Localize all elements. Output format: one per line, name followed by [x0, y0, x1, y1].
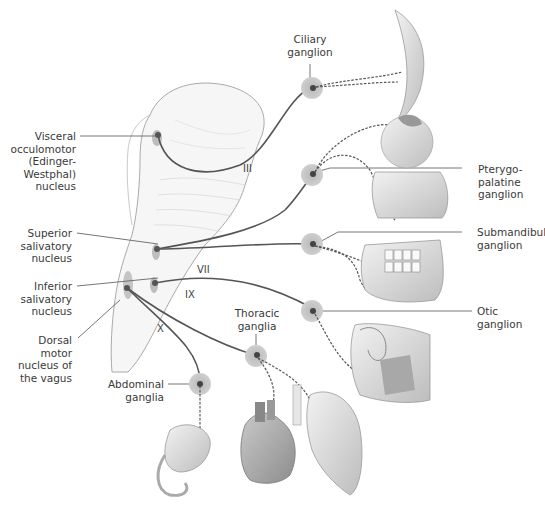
eye-lens-organ: [395, 10, 424, 125]
trachea-organ: [293, 385, 301, 425]
nerve-label-IX: IX: [185, 289, 195, 300]
heart-organ: [241, 413, 295, 483]
label-visceral-oculomotor-nucleus: Visceral occulomotor (Edinger- Westphal)…: [8, 130, 76, 193]
label-otic-ganglion: Otic ganglion: [477, 305, 537, 330]
label-thoracic-ganglia: Thoracic ganglia: [228, 307, 286, 332]
stomach-organ: [165, 425, 210, 472]
nerve-label-X: X: [157, 323, 164, 334]
label-ciliary-ganglion: Ciliary ganglion: [280, 33, 340, 58]
nerve-label-VII: VII: [197, 264, 210, 275]
nasal-cavity-organ: [372, 172, 448, 218]
label-inferior-salivatory-nucleus: Inferior salivatory nucleus: [8, 280, 72, 318]
label-pterygopalatine-ganglion: Pterygo- palatine ganglion: [478, 163, 542, 201]
lung-organ: [307, 392, 362, 495]
label-superior-salivatory-nucleus: Superior salivatory nucleus: [8, 227, 72, 265]
parasympathetic-diagram: [0, 0, 545, 506]
label-submandibular-ganglion: Submandibular ganglion: [477, 226, 545, 251]
nerve-label-III: III: [243, 163, 252, 174]
label-abdominal-ganglia: Abdominal ganglia: [100, 378, 164, 403]
label-dorsal-vagus-nucleus: Dorsal motor nucleus of the vagus: [8, 334, 72, 384]
